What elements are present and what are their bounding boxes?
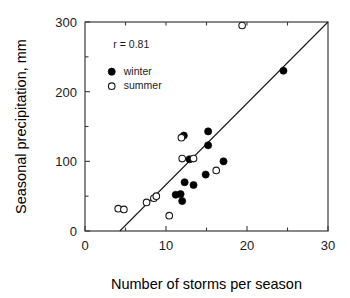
data-point-winter: [205, 128, 212, 135]
data-point-summer: [153, 193, 160, 200]
data-point-summer: [178, 134, 185, 141]
data-point-winter: [179, 197, 186, 204]
legend-marker-summer: [108, 83, 115, 90]
data-point-summer: [143, 199, 150, 206]
y-tick-label: 200: [55, 85, 77, 100]
data-point-winter: [280, 67, 287, 74]
y-tick-label: 0: [70, 224, 77, 239]
data-point-winter: [181, 179, 188, 186]
data-point-summer: [166, 212, 173, 219]
correlation-annotation: r = 0.81: [113, 38, 149, 50]
plot-frame: [85, 22, 328, 231]
x-tick-label: 10: [159, 238, 173, 253]
x-tick-label: 0: [81, 238, 88, 253]
y-axis-title: Seasonal precipitation, mm: [13, 39, 29, 214]
data-point-summer: [179, 155, 186, 162]
data-point-winter: [202, 171, 209, 178]
data-point-summer: [121, 206, 128, 213]
data-point-winter: [205, 142, 212, 149]
y-tick-label: 100: [55, 154, 77, 169]
chart-canvas: 01002003000102030r = 0.81wintersummerNum…: [0, 0, 350, 298]
data-point-winter: [220, 158, 227, 165]
legend-label-winter: winter: [123, 65, 153, 77]
data-point-winter: [177, 190, 184, 197]
legend-marker-winter: [108, 68, 115, 75]
data-point-summer: [213, 167, 220, 174]
data-point-summer: [190, 155, 197, 162]
data-point-winter: [190, 181, 197, 188]
x-tick-label: 20: [240, 238, 254, 253]
scatter-plot-figure: 01002003000102030r = 0.81wintersummerNum…: [0, 0, 350, 298]
legend-label-summer: summer: [124, 79, 162, 91]
y-tick-label: 300: [55, 15, 77, 30]
x-axis-title: Number of storms per season: [111, 276, 302, 292]
x-tick-label: 30: [321, 238, 335, 253]
data-point-summer: [239, 22, 246, 29]
